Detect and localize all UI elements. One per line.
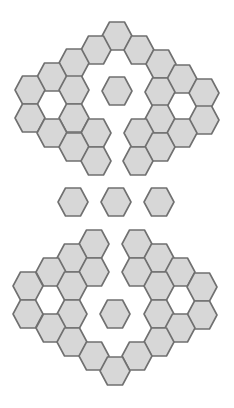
top-cluster bbox=[15, 22, 219, 175]
hexagon-tile bbox=[144, 272, 174, 300]
bottom-cluster bbox=[13, 230, 217, 385]
hexagon-tile bbox=[101, 188, 131, 216]
hexagon-tile bbox=[100, 300, 130, 328]
hexagon-tile bbox=[145, 78, 175, 106]
hexagon-tile bbox=[15, 76, 45, 104]
hexagon-tile bbox=[81, 147, 111, 175]
hexagon-tile bbox=[58, 188, 88, 216]
hexagon-tile bbox=[187, 273, 217, 301]
hexagon-tile bbox=[13, 272, 43, 300]
hexagon-tile bbox=[57, 272, 87, 300]
middle-row bbox=[58, 188, 174, 216]
hexagon-tile bbox=[189, 79, 219, 107]
hexagon-tile bbox=[123, 147, 153, 175]
hexagon-tile bbox=[59, 76, 89, 104]
hexagon-tiling-diagram bbox=[0, 0, 234, 408]
hexagon-tile bbox=[100, 357, 130, 385]
hexagon-tile bbox=[102, 77, 132, 105]
hexagon-tile bbox=[144, 188, 174, 216]
